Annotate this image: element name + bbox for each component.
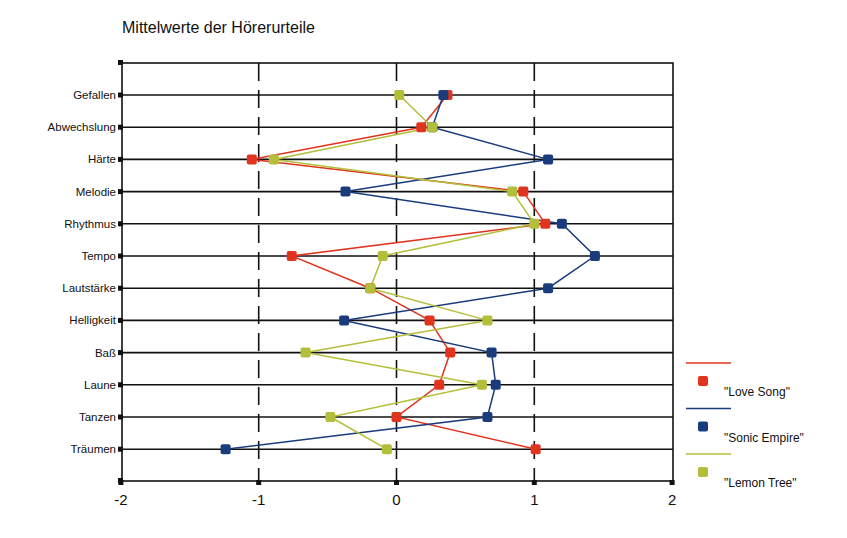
data-marker <box>482 315 492 325</box>
data-marker <box>287 251 297 261</box>
y-axis-label: Abwechslung <box>48 121 116 133</box>
y-tick <box>118 447 123 452</box>
data-marker <box>487 348 497 358</box>
series-layer <box>221 90 600 454</box>
x-tick <box>532 480 537 485</box>
data-marker <box>382 444 392 454</box>
y-tick <box>118 60 123 65</box>
data-marker <box>557 219 567 229</box>
data-marker <box>482 412 492 422</box>
data-marker <box>543 283 553 293</box>
data-marker <box>269 154 279 164</box>
y-tick <box>118 93 123 98</box>
data-marker <box>540 219 550 229</box>
data-marker <box>438 90 448 100</box>
legend-marker <box>698 467 708 477</box>
data-marker <box>365 283 375 293</box>
y-axis-label: Tempo <box>81 250 116 262</box>
data-marker <box>392 412 402 422</box>
y-axis-label: Helligkeit <box>69 314 116 326</box>
y-tick <box>118 189 123 194</box>
y-axis-label: Rhythmus <box>64 218 116 230</box>
y-axis-label: Melodie <box>76 186 116 198</box>
data-marker <box>394 90 404 100</box>
data-marker <box>477 380 487 390</box>
legend-label: "Sonic Empire" <box>724 431 804 445</box>
data-marker <box>518 187 528 197</box>
legend-marker <box>698 376 708 386</box>
data-marker <box>543 154 553 164</box>
data-marker <box>445 348 455 358</box>
chart-area: GefallenAbwechslungHärteMelodieRhythmusT… <box>0 0 847 538</box>
y-axis-label: Härte <box>88 153 116 165</box>
y-axis-label: Gefallen <box>73 89 116 101</box>
legend-label: "Lemon Tree" <box>724 476 797 490</box>
data-marker <box>531 444 541 454</box>
data-marker <box>507 187 517 197</box>
data-marker <box>416 122 426 132</box>
y-axis-label: Träumen <box>70 443 116 455</box>
y-tick <box>118 125 123 130</box>
data-marker <box>247 154 257 164</box>
x-axis-label: 2 <box>668 491 676 508</box>
legend: "Love Song""Sonic Empire""Lemon Tree" <box>686 363 804 490</box>
x-axis-label: -2 <box>114 491 127 508</box>
data-marker <box>301 348 311 358</box>
data-marker <box>491 380 501 390</box>
data-marker <box>425 315 435 325</box>
y-tick <box>118 157 123 162</box>
y-axis-label: Baß <box>95 347 116 359</box>
data-marker <box>339 315 349 325</box>
y-tick <box>118 318 123 323</box>
data-marker <box>427 122 437 132</box>
data-marker <box>325 412 335 422</box>
legend-marker <box>698 422 708 432</box>
series-line <box>226 95 595 449</box>
x-tick <box>256 480 261 485</box>
y-tick <box>118 350 123 355</box>
y-axis-label: Lautstärke <box>62 282 116 294</box>
data-marker <box>590 251 600 261</box>
data-marker <box>434 380 444 390</box>
legend-label: "Love Song" <box>724 385 790 399</box>
y-axis-label: Laune <box>84 379 116 391</box>
x-axis-label: -1 <box>252 491 265 508</box>
x-axis-label: 1 <box>530 491 538 508</box>
y-tick <box>118 254 123 259</box>
y-tick <box>118 286 123 291</box>
data-marker <box>529 219 539 229</box>
data-marker <box>341 187 351 197</box>
x-tick <box>118 480 123 485</box>
x-axis-label: 0 <box>392 491 400 508</box>
y-tick <box>118 382 123 387</box>
x-tick <box>670 480 675 485</box>
y-tick <box>118 415 123 420</box>
y-tick <box>118 221 123 226</box>
x-tick <box>394 480 399 485</box>
data-marker <box>221 444 231 454</box>
y-axis-label: Tanzen <box>79 411 116 423</box>
data-marker <box>378 251 388 261</box>
series-line <box>252 95 546 449</box>
